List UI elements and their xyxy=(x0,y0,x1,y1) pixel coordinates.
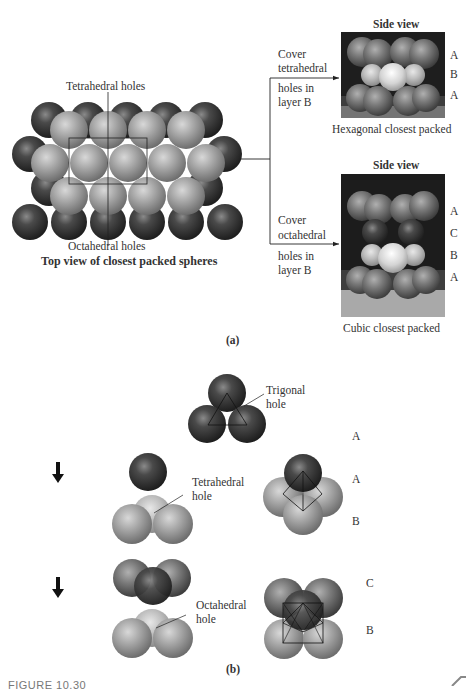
ccp-instruction-line3: holes in xyxy=(278,249,314,263)
hcp-instruction-line1: Cover xyxy=(278,47,306,61)
trigonal-hole-label-line1: Trigonal xyxy=(266,383,305,397)
octahedral-holes-label: Octahedral holes xyxy=(68,239,146,253)
part-a-label: (a) xyxy=(226,333,239,347)
hcp-side-view-title: Side view xyxy=(373,17,419,31)
ccp-photo xyxy=(341,174,445,317)
octahedral-layer-label: B xyxy=(366,623,374,637)
ccp-layer-label: B xyxy=(450,248,458,262)
ccp-layer-label: C xyxy=(450,226,458,240)
ccp-caption: Cubic closest packed xyxy=(343,321,440,335)
tetrahedral-holes-label: Tetrahedral holes xyxy=(66,79,145,93)
octahedral-exploded xyxy=(112,559,193,658)
ccp-instruction-line2: octahedral xyxy=(278,228,326,242)
ccp-layer-label: A xyxy=(450,270,458,284)
tetrahedral-hole-label-line1: Tetrahedral xyxy=(192,475,244,489)
tetrahedral-hole-label-line2: hole xyxy=(192,489,212,503)
hcp-caption: Hexagonal closest packed xyxy=(332,122,451,136)
octahedral-hole-label-line1: Octahedral xyxy=(196,598,246,612)
down-arrow-icon xyxy=(52,462,64,483)
hcp-layer-label: B xyxy=(450,67,458,81)
ccp-side-view-title: Side view xyxy=(373,158,419,172)
trigonal-hole-label-line2: hole xyxy=(266,397,286,411)
tetrahedral-exploded xyxy=(112,453,193,544)
tetrahedral-layer-label: A xyxy=(352,472,360,486)
ccp-instruction-line4: layer B xyxy=(278,263,312,277)
hcp-layer-label: A xyxy=(450,88,458,102)
trigonal-layer-label: A xyxy=(352,429,360,443)
top-view-caption: Top view of closest packed spheres xyxy=(41,254,217,268)
part-b-label: (b) xyxy=(226,662,240,676)
ccp-instruction-line1: Cover xyxy=(278,213,306,227)
page-corner-icon xyxy=(452,677,466,686)
hcp-instruction-line4: layer B xyxy=(278,95,312,109)
octahedral-assembled xyxy=(264,578,343,659)
hcp-instruction-line2: tetrahedral xyxy=(278,61,327,75)
tetrahedral-layer-label: B xyxy=(352,514,360,528)
hcp-instruction-line3: holes in xyxy=(278,81,314,95)
hcp-layer-label: A xyxy=(450,48,458,62)
tetrahedral-assembled xyxy=(263,454,343,535)
hcp-photo xyxy=(341,32,445,118)
ccp-layer-label: A xyxy=(450,204,458,218)
down-arrow-icon xyxy=(52,577,64,598)
trigonal-hole-diagram xyxy=(188,374,266,443)
octahedral-layer-label: C xyxy=(366,576,374,590)
figure-number: FIGURE 10.30 xyxy=(8,679,86,691)
octahedral-hole-label-line2: hole xyxy=(196,612,216,626)
